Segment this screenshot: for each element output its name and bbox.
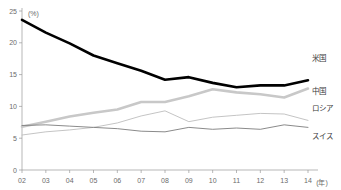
x-tick-label: 11 <box>233 177 240 184</box>
series-label-中国: 中国 <box>312 86 326 96</box>
y-tick-label: 10 <box>9 103 17 110</box>
y-tick-label: 5 <box>13 135 17 142</box>
chart-svg: 0510152025 02030405060708091011121314 米国… <box>0 0 341 190</box>
line-chart: 0510152025 02030405060708091011121314 米国… <box>0 0 341 190</box>
y-tick-label: 20 <box>9 39 17 46</box>
x-tick-label: 13 <box>280 177 288 184</box>
x-tick-label: 06 <box>113 177 121 184</box>
y-axis-unit-label: (%) <box>28 10 39 18</box>
series-label-ロシア: ロシア <box>312 104 333 113</box>
x-tick-label: 14 <box>304 177 312 184</box>
x-tick-label: 08 <box>161 177 169 184</box>
x-axis-unit-label: (年) <box>316 178 328 187</box>
x-tick-label: 04 <box>66 177 74 184</box>
x-tick-label: 12 <box>256 177 264 184</box>
x-tick-label: 09 <box>185 177 193 184</box>
y-axis: 0510152025 <box>9 8 22 174</box>
series-line-米国 <box>22 20 308 87</box>
y-tick-label: 0 <box>13 167 17 174</box>
series-label-米国: 米国 <box>312 53 326 63</box>
x-axis: 02030405060708091011121314 <box>18 170 318 184</box>
x-tick-label: 05 <box>90 177 98 184</box>
series-lines <box>22 20 308 135</box>
series-label-スイス: スイス <box>312 132 333 141</box>
x-tick-label: 10 <box>209 177 217 184</box>
series-line-中国 <box>22 89 308 127</box>
x-tick-label: 03 <box>42 177 50 184</box>
y-tick-label: 25 <box>9 8 17 15</box>
series-line-スイス <box>22 125 308 132</box>
y-tick-label: 15 <box>9 71 17 78</box>
x-tick-label: 07 <box>137 177 145 184</box>
series-legend-labels: 米国中国ロシアスイス <box>312 53 333 141</box>
x-tick-label: 02 <box>18 177 26 184</box>
